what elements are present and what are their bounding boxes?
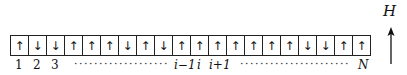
- site-label-N: N: [358, 58, 369, 72]
- spin-chain: ↑↓↓↑↑↑↓↑↓↑↑↑↑↑↑↑↓↓↑↑: [10, 35, 371, 56]
- field-arrow-up-icon: [386, 27, 396, 64]
- site-label-1: 1: [15, 58, 23, 72]
- spin-cell-19-up: ↑: [335, 36, 353, 55]
- site-label-2: 2: [33, 58, 41, 72]
- field-label: H: [383, 2, 396, 20]
- spin-cell-14-up: ↑: [245, 36, 263, 55]
- spin-cell-15-up: ↑: [263, 36, 281, 55]
- ellipsis-right: ··································: [240, 58, 350, 72]
- site-label-i-minus-1: i−1: [174, 58, 196, 72]
- spin-cell-12-up: ↑: [209, 36, 227, 55]
- spin-cell-11-up: ↑: [191, 36, 209, 55]
- spin-cell-20-up: ↑: [353, 36, 371, 55]
- spin-cell-17-down: ↓: [299, 36, 317, 55]
- spin-cell-18-down: ↓: [317, 36, 335, 55]
- site-label-3: 3: [51, 58, 59, 72]
- spin-cell-9-down: ↓: [155, 36, 173, 55]
- spin-cell-13-up: ↑: [227, 36, 245, 55]
- spin-cell-7-down: ↓: [119, 36, 137, 55]
- spin-cell-3-down: ↓: [47, 36, 65, 55]
- site-label-i-plus-1: i+1: [209, 58, 231, 72]
- spin-cell-2-down: ↓: [29, 36, 47, 55]
- spin-cell-5-up: ↑: [83, 36, 101, 55]
- ellipsis-left: ································: [74, 58, 168, 72]
- site-label-i: i: [197, 58, 201, 72]
- spin-cell-10-up: ↑: [173, 36, 191, 55]
- spin-cell-1-up: ↑: [11, 36, 29, 55]
- spin-cell-4-up: ↑: [65, 36, 83, 55]
- spin-cell-8-up: ↑: [137, 36, 155, 55]
- spin-cell-16-up: ↑: [281, 36, 299, 55]
- spin-cell-6-up: ↑: [101, 36, 119, 55]
